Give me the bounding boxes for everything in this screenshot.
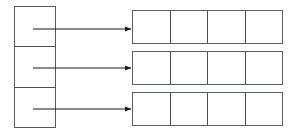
diagram-canvas (0, 0, 299, 134)
arrow-layer (0, 0, 299, 134)
